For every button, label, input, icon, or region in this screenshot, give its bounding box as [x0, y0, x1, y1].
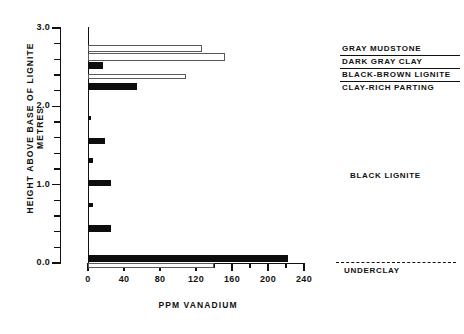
bar-black-lignite	[88, 116, 91, 121]
chart-figure: 0.01.02.03.0 04080120160200240 HEIGHT AB…	[0, 0, 464, 334]
bar-black-lignite	[88, 83, 137, 90]
x-tick-label: 80	[140, 274, 180, 284]
x-tick-label: 240	[284, 274, 324, 284]
y-tick-minor	[54, 200, 61, 201]
x-tick-label: 0	[68, 274, 108, 284]
annotation-rule-underclay	[336, 262, 456, 263]
bar-black-lignite	[88, 225, 111, 232]
y-axis-title: HEIGHT ABOVE BASE OF LIGNITE METRES	[25, 13, 45, 243]
bar-black-lignite	[88, 158, 93, 162]
bar-black-lignite	[88, 255, 288, 262]
y-axis-title-line2: METRES	[35, 13, 45, 243]
annotation-rule-gray-mudstone	[340, 55, 460, 56]
y-tick-minor	[54, 215, 61, 216]
x-tick-minor	[285, 263, 286, 268]
bar-black-lignite	[88, 138, 105, 144]
x-tick-label: 160	[212, 274, 252, 284]
bar-clay-rich-parting	[88, 74, 186, 80]
y-tick-major	[52, 262, 61, 263]
y-tick-minor	[54, 43, 61, 44]
x-tick-label: 40	[104, 274, 144, 284]
y-tick-minor	[54, 231, 61, 232]
annotation-clay-rich-parting: CLAY-RICH PARTING	[342, 83, 434, 92]
y-tick-major	[52, 184, 61, 185]
bar-dark-gray-clay	[88, 53, 225, 60]
y-tick-minor	[54, 137, 61, 138]
annotation-gray-mudstone: GRAY MUDSTONE	[342, 44, 421, 53]
x-tick-label: 200	[248, 274, 288, 284]
x-axis-title: PPM VANADIUM	[118, 300, 278, 310]
y-tick-minor	[54, 121, 61, 122]
x-tick-major	[231, 263, 232, 271]
annotation-rule-dark-gray-clay	[340, 68, 460, 69]
x-tick-major	[267, 263, 268, 271]
annotation-underclay: UNDERCLAY	[344, 266, 400, 275]
x-tick-label: 120	[176, 274, 216, 284]
y-tick-minor	[54, 153, 61, 154]
plot-area: 0.01.02.03.0 04080120160200240 HEIGHT AB…	[0, 0, 464, 334]
y-tick-minor	[54, 168, 61, 169]
bar-underclay	[88, 263, 214, 268]
annotation-rule-black-brown-lignite	[340, 81, 460, 82]
bar-gray-mudstone	[88, 45, 202, 52]
y-tick-minor	[54, 74, 61, 75]
annotation-black-brown-lignite: BLACK-BROWN LIGNITE	[342, 70, 451, 79]
x-tick-minor	[249, 263, 250, 268]
y-tick-major	[52, 106, 61, 107]
bar-black-lignite	[88, 180, 111, 187]
y-axis-title-line1: HEIGHT ABOVE BASE OF LIGNITE	[25, 42, 35, 213]
bar-black-brown-lignite	[88, 62, 103, 68]
y-tick-minor	[54, 59, 61, 60]
y-tick-label: 0.0	[0, 257, 50, 267]
x-tick-major	[303, 263, 304, 271]
y-tick-minor	[54, 90, 61, 91]
y-axis-line	[60, 27, 61, 264]
y-tick-minor	[54, 247, 61, 248]
annotation-black-lignite: BLACK LIGNITE	[350, 171, 421, 180]
bar-black-lignite	[88, 203, 93, 207]
annotation-dark-gray-clay: DARK GRAY CLAY	[342, 57, 423, 66]
y-tick-major	[52, 27, 61, 28]
